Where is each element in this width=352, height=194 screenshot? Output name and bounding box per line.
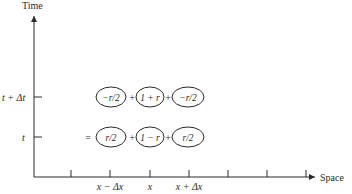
- equals-sign: =: [85, 132, 91, 143]
- plus-operator: +: [165, 132, 171, 143]
- x-tick-label-x: x: [147, 181, 153, 192]
- row-t: = r/2 + 1 − r + r/2: [85, 127, 204, 147]
- row-t-plus-dt: −r/2 + 1 + r + −r/2: [96, 87, 204, 107]
- x-tick-label-x-plus-dx: x + Δx: [175, 181, 203, 192]
- x-tick-label-x-minus-dx: x − Δx: [96, 181, 124, 192]
- space-axis-label: Space: [320, 172, 344, 183]
- plus-operator: +: [129, 132, 135, 143]
- term-left-top: −r/2: [102, 93, 120, 103]
- term-right-top: −r/2: [179, 93, 197, 103]
- term-right-bottom: r/2: [182, 133, 193, 143]
- term-center-bottom: 1 − r: [140, 133, 160, 143]
- time-axis-label: Time: [22, 0, 43, 11]
- plus-operator: +: [129, 92, 135, 103]
- x-ticks: [71, 170, 306, 177]
- term-center-top: 1 + r: [140, 93, 160, 103]
- y-tick-label-t-plus-dt: t + Δt: [2, 92, 25, 103]
- stencil-diagram: Time Space t + Δt t x − Δx x x + Δx −r/2…: [0, 0, 352, 194]
- y-tick-label-t: t: [22, 132, 25, 143]
- term-left-bottom: r/2: [105, 133, 116, 143]
- plus-operator: +: [165, 92, 171, 103]
